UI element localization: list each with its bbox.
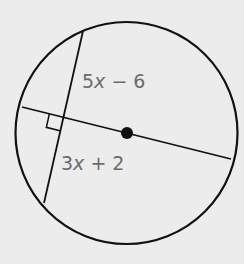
chord-line [44,31,83,203]
upper-segment-label: 5x − 6 [82,70,145,92]
center-point [121,127,133,139]
lower-segment-label: 3x + 2 [61,152,124,174]
circle-chord-diagram: 5x − 6 3x + 2 [0,0,244,264]
